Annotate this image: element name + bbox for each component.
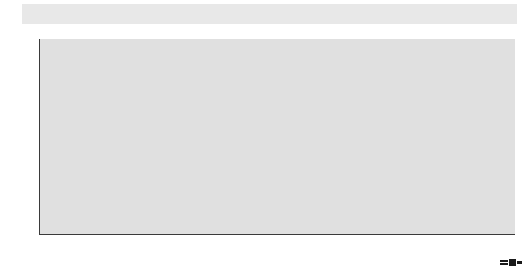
statlink[interactable] [496,259,526,266]
x-axis-labels [39,238,515,252]
chart-legend [22,4,517,24]
bar-group [39,39,515,235]
chart-page [0,0,531,268]
plot-area [39,39,515,235]
statlink-icon [500,259,522,266]
